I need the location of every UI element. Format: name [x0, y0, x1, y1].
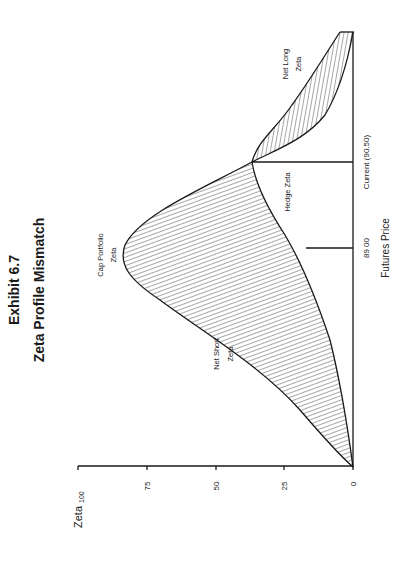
tick-label-0: 0 [349, 481, 358, 486]
net-long-label-1: Net Long [281, 49, 290, 79]
marker-label-current: Current (90.50) [362, 135, 371, 190]
net-short-zeta-area [123, 162, 353, 467]
hedge-zeta-label: Hedge Zeta [283, 172, 292, 212]
tick-label-75: 75 [143, 481, 152, 490]
futures-price-label: Futures Price [380, 218, 391, 278]
chart-subtitle: Zeta Profile Mismatch [31, 218, 47, 363]
net-short-label-2: Zeta [226, 346, 235, 362]
cap-portfolio-label-2: Zeta [109, 247, 118, 263]
marker-label-89: 89 00 [362, 237, 371, 258]
zeta-axis-label-100: 100 [78, 491, 85, 503]
net-long-label-2: Zeta [294, 56, 303, 72]
cap-portfolio-label-1: Cap Portfolio [96, 233, 105, 276]
chart-title: Exhibit 6.7 [6, 255, 22, 325]
zeta-axis-label: Zeta [72, 505, 84, 528]
chart-canvas: Exhibit 6.7 Zeta Profile Mismatch Zeta 1… [0, 0, 420, 568]
net-long-zeta-area [252, 32, 353, 162]
tick-label-25: 25 [280, 481, 289, 490]
tick-label-50: 50 [212, 481, 221, 490]
net-short-label-1: Net Short [212, 337, 221, 370]
